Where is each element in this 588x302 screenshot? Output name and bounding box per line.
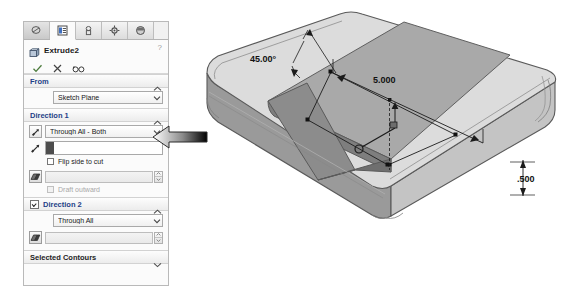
start-condition-select[interactable]: Sketch Plane	[53, 91, 163, 104]
property-manager-tab[interactable]	[50, 22, 76, 40]
draft-angle-stepper[interactable]	[154, 171, 163, 183]
configuration-manager-tab[interactable]	[76, 22, 102, 39]
draft-angle-icon[interactable]	[29, 170, 42, 183]
manager-tab-strip	[24, 22, 168, 40]
selected-contours-group-header[interactable]: Selected Contours	[24, 250, 168, 264]
graphics-area[interactable]: 45.00° 5.000 .500	[190, 10, 585, 298]
direction1-group-header[interactable]: Direction 1	[24, 108, 168, 122]
draft-outward-row: Draft outward	[47, 186, 163, 193]
from-group-header[interactable]: From	[24, 74, 168, 88]
detailed-preview-button[interactable]	[72, 60, 83, 71]
angle-dimension-label: 45.00°	[250, 54, 277, 64]
property-manager-panel: Extrude2 ? From	[23, 21, 169, 286]
direction-vector-row	[29, 141, 163, 155]
selected-contours-title: Selected Contours	[30, 253, 96, 262]
stepper-down-icon[interactable]	[155, 177, 162, 182]
direction2-draft-angle-field	[45, 232, 153, 244]
draft-angle-row	[29, 170, 163, 183]
feature-manager-tree-tab[interactable]	[24, 22, 50, 39]
feature-title-row: Extrude2 ?	[24, 40, 168, 58]
direction1-group-body: Through All - Both	[24, 122, 168, 197]
direction2-enable-checkbox[interactable]	[30, 200, 39, 209]
direction2-end-condition-select[interactable]: Through All	[53, 214, 163, 227]
direction2-group-title: Direction 2	[43, 200, 82, 209]
tab-strip-filler	[154, 22, 168, 39]
end-condition-select[interactable]: Through All - Both	[45, 125, 163, 138]
help-button[interactable]: ?	[158, 43, 162, 52]
from-group-body: Sketch Plane	[24, 88, 168, 108]
length-dimension-label: 5.000	[373, 75, 396, 85]
stepper-down-icon[interactable]	[155, 238, 162, 243]
draft-outward-label: Draft outward	[58, 186, 100, 193]
depth-dimension-label: .500	[517, 174, 535, 184]
configuration-icon	[83, 25, 94, 36]
flip-side-to-cut-label: Flip side to cut	[58, 158, 103, 165]
list-icon	[57, 25, 68, 36]
start-condition-value: Sketch Plane	[58, 94, 151, 101]
direction2-end-condition-value: Through All	[58, 217, 151, 224]
direction2-draft-stepper[interactable]	[154, 232, 163, 244]
draft-angle-field	[45, 171, 153, 183]
display-manager-tab[interactable]	[128, 22, 154, 39]
dimxpert-manager-tab[interactable]	[102, 22, 128, 39]
direction-vector-field[interactable]	[45, 141, 163, 155]
cancel-button[interactable]	[52, 60, 63, 71]
direction-vector-icon[interactable]	[29, 142, 42, 155]
feature-name-label: Extrude2	[44, 46, 79, 55]
sphere-icon	[135, 25, 146, 36]
ok-button[interactable]	[32, 60, 43, 71]
direction2-draft-row	[29, 231, 163, 244]
end-condition-value: Through All - Both	[50, 128, 151, 135]
direction2-group-header[interactable]: Direction 2	[24, 197, 168, 211]
extrude-feature-icon	[29, 45, 40, 56]
target-icon	[109, 25, 120, 36]
end-condition-row: Through All - Both	[29, 125, 163, 138]
direction2-group-body: Through All	[24, 211, 168, 248]
direction1-group-title: Direction 1	[30, 111, 69, 120]
draft-outward-checkbox	[47, 186, 54, 193]
reverse-direction-icon[interactable]	[29, 125, 42, 138]
chevron-down-icon[interactable]	[153, 254, 162, 272]
flip-side-to-cut-row[interactable]: Flip side to cut	[47, 158, 163, 165]
feature-action-row	[24, 58, 168, 74]
flip-side-to-cut-checkbox[interactable]	[47, 158, 54, 165]
chevron-down-icon[interactable]	[151, 215, 162, 226]
tree-icon	[31, 25, 42, 36]
selection-color-swatch	[46, 142, 54, 154]
from-group-title: From	[30, 77, 49, 86]
draft-angle-icon[interactable]	[29, 231, 42, 244]
chevron-down-icon[interactable]	[151, 92, 162, 103]
